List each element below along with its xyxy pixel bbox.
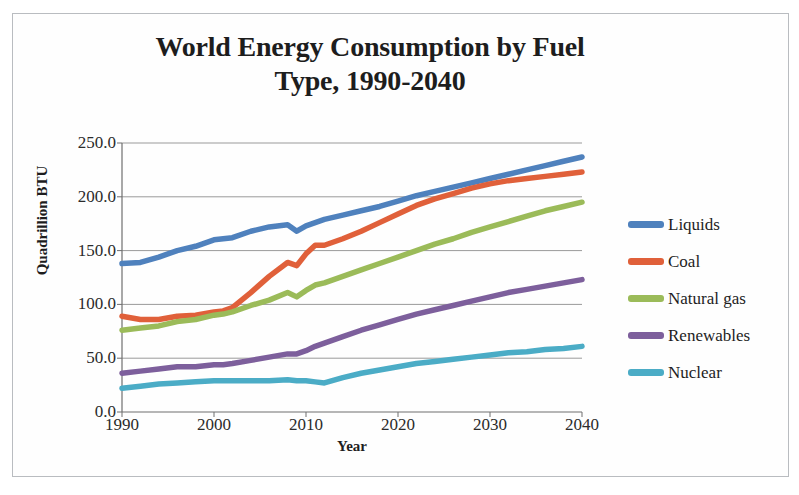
legend-label: Liquids bbox=[668, 215, 720, 235]
legend-swatch-icon bbox=[628, 332, 664, 339]
legend-label: Nuclear bbox=[668, 363, 722, 383]
gridlines bbox=[122, 143, 582, 412]
legend-item-liquids[interactable]: Liquids bbox=[628, 206, 788, 243]
legend-item-coal[interactable]: Coal bbox=[628, 243, 788, 280]
legend-label: Renewables bbox=[668, 326, 750, 346]
legend-swatch-icon bbox=[628, 295, 664, 302]
legend-item-natural-gas[interactable]: Natural gas bbox=[628, 280, 788, 317]
line-chart: World Energy Consumption by Fuel Type, 1… bbox=[0, 0, 799, 495]
legend-swatch-icon bbox=[628, 221, 664, 228]
legend-swatch-icon bbox=[628, 369, 664, 376]
series-line-liquids bbox=[122, 157, 582, 264]
legend-item-nuclear[interactable]: Nuclear bbox=[628, 354, 788, 391]
series-line-renewables bbox=[122, 280, 582, 374]
legend-label: Coal bbox=[668, 252, 700, 272]
chart-legend: LiquidsCoalNatural gasRenewablesNuclear bbox=[628, 206, 788, 391]
chart-page: World Energy Consumption by Fuel Type, 1… bbox=[0, 0, 799, 495]
legend-label: Natural gas bbox=[668, 289, 746, 309]
legend-swatch-icon bbox=[628, 258, 664, 265]
series-line-natural-gas bbox=[122, 202, 582, 330]
legend-item-renewables[interactable]: Renewables bbox=[628, 317, 788, 354]
axis-lines bbox=[122, 143, 582, 412]
data-series bbox=[122, 157, 582, 388]
